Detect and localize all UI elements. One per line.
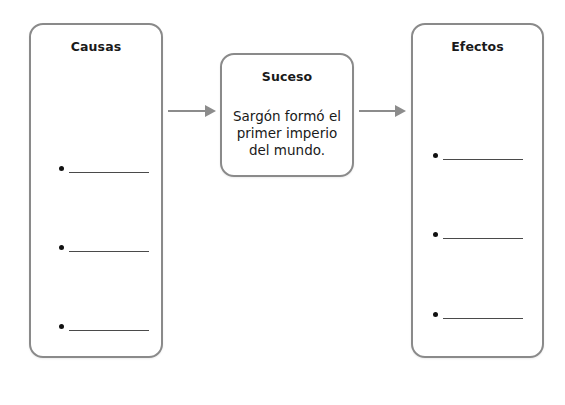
causes-box: Causas <box>29 23 163 358</box>
cause-item-3 <box>59 320 154 334</box>
arrow-right-icon <box>359 105 406 117</box>
bullet-icon <box>59 245 64 250</box>
bullet-icon <box>433 312 438 317</box>
bullet-icon <box>433 232 438 237</box>
effect-item-1 <box>433 149 528 163</box>
cause-blank-3[interactable] <box>69 330 149 331</box>
event-text-line-3: del mundo. <box>222 142 352 159</box>
cause-blank-1[interactable] <box>69 172 149 173</box>
effect-blank-2[interactable] <box>443 238 523 239</box>
bullet-icon <box>59 166 64 171</box>
arrow-shaft <box>168 110 206 112</box>
event-box: Suceso Sargón formó el primer imperio de… <box>220 53 354 177</box>
effects-title: Efectos <box>413 39 542 54</box>
arrow-head <box>395 105 406 117</box>
effect-blank-3[interactable] <box>443 318 523 319</box>
effect-item-2 <box>433 228 528 242</box>
cause-blank-2[interactable] <box>69 251 149 252</box>
cause-item-1 <box>59 162 154 176</box>
arrow-head <box>205 105 216 117</box>
event-text-line-2: primer imperio <box>222 125 352 142</box>
effects-box: Efectos <box>411 23 544 358</box>
arrow-right-icon <box>168 105 216 117</box>
event-title: Suceso <box>222 69 352 84</box>
effect-blank-1[interactable] <box>443 159 523 160</box>
bullet-icon <box>433 153 438 158</box>
cause-item-2 <box>59 241 154 255</box>
effect-item-3 <box>433 308 528 322</box>
event-text-line-1: Sargón formó el <box>222 108 352 125</box>
bullet-icon <box>59 324 64 329</box>
event-description: Sargón formó el primer imperio del mundo… <box>222 108 352 159</box>
causes-title: Causas <box>31 39 161 54</box>
arrow-shaft <box>359 110 396 112</box>
